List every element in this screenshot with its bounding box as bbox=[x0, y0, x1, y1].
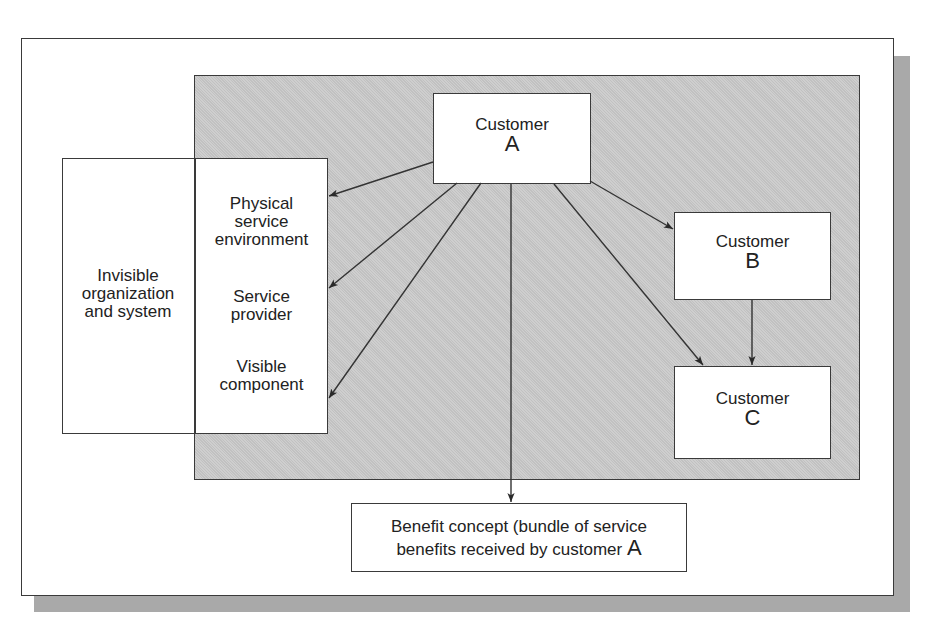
arrow-a-to-customer-b bbox=[590, 181, 673, 229]
arrow-a-to-service-provider bbox=[329, 183, 457, 288]
arrow-a-to-visible-component bbox=[329, 183, 481, 398]
arrow-a-to-physical-environment bbox=[329, 162, 433, 196]
arrow-a-to-customer-c bbox=[554, 184, 703, 365]
arrows-layer bbox=[0, 0, 926, 627]
